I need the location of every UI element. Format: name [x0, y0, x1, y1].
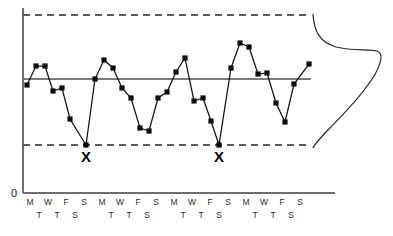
data-point-marker	[24, 82, 29, 87]
data-point-marker	[282, 119, 287, 124]
data-point-marker	[237, 40, 242, 45]
data-point-marker	[216, 142, 221, 147]
data-point-marker	[182, 55, 187, 60]
x-tick-label: W	[188, 197, 196, 207]
zero-axis-label: 0	[11, 187, 17, 199]
x-tick-label: T	[54, 210, 59, 220]
x-tick-label: F	[135, 197, 140, 207]
x-tick-label: M	[26, 197, 33, 207]
x-tick-label: F	[63, 197, 68, 207]
x-tick-label: F	[279, 197, 284, 207]
data-point-marker	[67, 116, 72, 121]
x-tick-labels-row2: TTSTTSTTSTTS	[36, 210, 294, 220]
data-point-marker	[101, 57, 106, 62]
data-point-marker	[306, 61, 311, 66]
data-point-marker	[155, 95, 160, 100]
data-point-marker	[255, 71, 260, 76]
data-point-marker	[119, 85, 124, 90]
data-point-marker	[50, 88, 55, 93]
x-tick-label: S	[225, 197, 231, 207]
x-tick-label: M	[170, 197, 177, 207]
data-point-marker	[264, 70, 269, 75]
data-point-marker	[83, 142, 88, 147]
data-point-marker	[200, 95, 205, 100]
data-point-marker	[173, 69, 178, 74]
x-tick-label: S	[216, 210, 222, 220]
x-tick-label: S	[81, 197, 87, 207]
x-tick-label: T	[36, 210, 41, 220]
data-point-marker	[110, 65, 115, 70]
x-tick-label: T	[252, 210, 257, 220]
series-markers	[24, 40, 311, 147]
out-of-control-marker-1: X	[81, 148, 91, 165]
data-point-marker	[191, 98, 196, 103]
data-point-marker	[291, 81, 296, 86]
x-tick-label: T	[126, 210, 131, 220]
x-tick-label: S	[72, 210, 78, 220]
x-tick-label: S	[144, 210, 150, 220]
data-point-marker	[137, 125, 142, 130]
x-tick-label: W	[44, 197, 52, 207]
data-point-marker	[92, 76, 97, 81]
annotations-group: XX	[81, 148, 224, 165]
data-point-marker	[246, 44, 251, 49]
data-point-marker	[42, 63, 47, 68]
series-group	[24, 40, 311, 147]
data-point-marker	[128, 95, 133, 100]
data-point-marker	[164, 89, 169, 94]
data-point-marker	[208, 118, 213, 123]
distribution-group	[313, 14, 381, 148]
x-tick-label: T	[108, 210, 113, 220]
x-tick-label: S	[288, 210, 294, 220]
axes-group	[23, 8, 335, 193]
control-chart: MWFSMWFSMWFSMWFS TTSTTSTTSTTS XX 0	[0, 0, 393, 236]
x-tick-label: W	[260, 197, 268, 207]
chart-canvas: MWFSMWFSMWFSMWFS TTSTTSTTSTTS XX 0	[0, 0, 393, 236]
data-point-marker	[59, 85, 64, 90]
data-point-marker	[33, 63, 38, 68]
x-tick-label: T	[180, 210, 185, 220]
reference-lines-group	[23, 15, 311, 145]
x-tick-labels-row1: MWFSMWFSMWFSMWFS	[26, 197, 303, 207]
distribution-curve	[313, 14, 381, 148]
x-tick-label: T	[198, 210, 203, 220]
data-point-marker	[273, 100, 278, 105]
data-point-marker	[146, 128, 151, 133]
x-tick-label: F	[207, 197, 212, 207]
x-tick-label: S	[297, 197, 303, 207]
x-tick-label: W	[116, 197, 124, 207]
x-tick-label: S	[153, 197, 159, 207]
x-tick-label: T	[270, 210, 275, 220]
x-tick-label: M	[242, 197, 249, 207]
x-tick-label: M	[98, 197, 105, 207]
data-point-marker	[228, 65, 233, 70]
out-of-control-marker-2: X	[214, 148, 224, 165]
